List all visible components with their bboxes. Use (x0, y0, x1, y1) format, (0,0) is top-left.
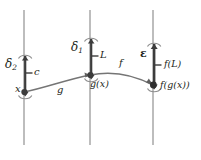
delta1-label: δ1 (71, 41, 83, 54)
label-fgx: f(g(x)) (160, 80, 190, 90)
label-c: c (34, 67, 40, 77)
map-label-f: f (119, 58, 123, 68)
label-x: x (15, 84, 21, 94)
label-L: L (100, 50, 107, 60)
point-x (21, 89, 27, 95)
limit-composition-figure: δ2 c x g δ1 L g(x) f ε f(L) f(g(x)) (0, 0, 201, 160)
map-label-g: g (57, 85, 63, 95)
delta2-label: δ2 (5, 58, 17, 71)
label-gx: g(x) (90, 79, 109, 89)
label-fL: f(L) (164, 59, 181, 69)
epsilon-label: ε (140, 48, 147, 59)
point-fgx (150, 82, 157, 89)
